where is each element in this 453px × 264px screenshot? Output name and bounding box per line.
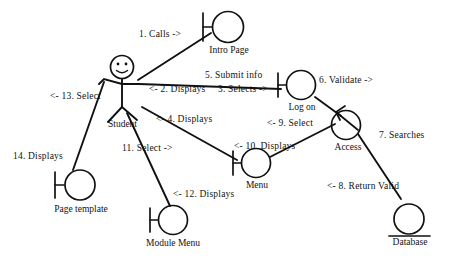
link-actor-intro-page xyxy=(138,33,211,80)
message-label-11: 11. Select -> xyxy=(122,144,173,154)
diagram-canvas: Student Intro Page Log on Access Databas… xyxy=(0,0,453,264)
boundary-intro-page-glyph xyxy=(203,12,244,43)
node-label-module-menu: Module Menu xyxy=(140,239,206,249)
entity-database-glyph xyxy=(389,204,430,236)
actor-student-figure xyxy=(99,56,139,123)
message-label-10: <- 10. Displays xyxy=(234,142,295,152)
control-access-glyph xyxy=(332,106,361,140)
message-label-13: <- 13. Select xyxy=(50,92,101,102)
message-label-2: <- 2. Displays xyxy=(149,85,205,95)
message-label-4: <- 4. Displays xyxy=(156,115,212,125)
message-label-14: 14. Displays xyxy=(13,152,63,162)
node-label-intro-page: Intro Page xyxy=(204,46,254,56)
message-label-6: 6. Validate -> xyxy=(319,76,373,86)
message-label-1: 1. Calls -> xyxy=(139,30,181,40)
boundary-log-on-glyph xyxy=(278,71,316,100)
message-label-3: 3. Selects -> xyxy=(218,85,268,95)
actor-student-label: Student xyxy=(100,120,145,130)
boundary-menu-glyph xyxy=(233,149,271,178)
node-label-menu: Menu xyxy=(240,181,274,191)
message-label-7: 7. Searches xyxy=(379,131,424,141)
boundary-module-menu-glyph xyxy=(150,206,188,235)
message-label-12: <- 12. Displays xyxy=(173,190,234,200)
node-label-access: Access xyxy=(328,143,368,153)
node-label-page-template: Page template xyxy=(46,205,116,215)
message-label-9: <- 9. Select xyxy=(267,119,313,129)
node-label-log-on: Log on xyxy=(283,103,321,113)
message-label-5: 5. Submit info xyxy=(205,71,262,81)
message-label-8: <- 8. Return Valid xyxy=(327,182,399,192)
node-label-database: Database xyxy=(386,238,434,248)
boundary-page-template-glyph xyxy=(55,170,95,200)
